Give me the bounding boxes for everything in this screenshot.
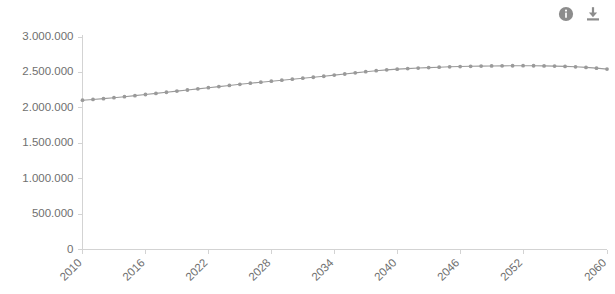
series-data-point[interactable] [595, 66, 599, 70]
series-data-point[interactable] [437, 65, 441, 69]
series-data-point[interactable] [406, 67, 410, 71]
series-data-point[interactable] [332, 73, 336, 77]
download-icon[interactable] [584, 5, 601, 22]
series-data-point[interactable] [490, 64, 494, 68]
series-data-point[interactable] [427, 66, 431, 70]
series-data-point[interactable] [175, 89, 179, 93]
series-data-point[interactable] [81, 98, 85, 102]
x-tick-label: 2034 [309, 256, 336, 283]
series-data-point[interactable] [186, 88, 190, 92]
series-data-point[interactable] [133, 94, 137, 98]
data-series [81, 64, 609, 102]
y-tick-label: 500.000 [32, 207, 74, 219]
series-data-point[interactable] [500, 64, 504, 68]
series-data-point[interactable] [542, 64, 546, 68]
series-data-point[interactable] [532, 64, 536, 68]
series-data-point[interactable] [385, 68, 389, 72]
x-tick-label: 2010 [57, 256, 84, 283]
series-data-point[interactable] [91, 98, 95, 102]
series-data-point[interactable] [238, 82, 242, 86]
series-data-point[interactable] [374, 69, 378, 73]
series-data-point[interactable] [469, 64, 473, 68]
series-line [83, 66, 608, 100]
series-data-point[interactable] [364, 70, 368, 74]
series-data-point[interactable] [416, 66, 420, 70]
x-tick-label: 2046 [435, 256, 462, 283]
x-tick-label: 2022 [183, 256, 210, 283]
y-tick-label: 2.000.000 [22, 101, 73, 113]
series-data-point[interactable] [227, 84, 231, 88]
chart-svg: 3.000.0002.500.0002.000.0001.500.0001.00… [0, 0, 615, 294]
x-tick-label: 2052 [498, 256, 525, 283]
series-data-point[interactable] [521, 64, 525, 68]
y-tick-label: 2.500.000 [22, 65, 73, 77]
series-data-point[interactable] [269, 79, 273, 83]
series-data-point[interactable] [165, 90, 169, 94]
series-data-point[interactable] [511, 64, 515, 68]
series-data-point[interactable] [290, 77, 294, 81]
series-data-point[interactable] [248, 81, 252, 85]
series-data-point[interactable] [448, 65, 452, 69]
chart-widget: 3.000.0002.500.0002.000.0001.500.0001.00… [0, 0, 615, 294]
y-tick-label: 0 [67, 243, 73, 255]
series-data-point[interactable] [479, 64, 483, 68]
series-data-point[interactable] [311, 75, 315, 79]
x-tick-label: 2016 [120, 256, 147, 283]
series-data-point[interactable] [217, 85, 221, 89]
series-data-point[interactable] [102, 97, 106, 101]
y-axis: 3.000.0002.500.0002.000.0001.500.0001.00… [22, 30, 82, 255]
series-data-point[interactable] [605, 67, 609, 71]
series-data-point[interactable] [353, 71, 357, 75]
plot-area: 3.000.0002.500.0002.000.0001.500.0001.00… [0, 0, 615, 294]
series-data-point[interactable] [196, 87, 200, 91]
series-data-point[interactable] [553, 64, 557, 68]
series-data-point[interactable] [395, 67, 399, 71]
series-data-point[interactable] [322, 74, 326, 78]
series-data-point[interactable] [458, 65, 462, 69]
x-axis: 201020162022202820342040204620522060 [57, 250, 608, 284]
series-data-point[interactable] [123, 95, 127, 99]
y-tick-label: 3.000.000 [22, 30, 73, 42]
series-data-point[interactable] [206, 86, 210, 90]
x-tick-label: 2040 [372, 256, 399, 283]
series-data-point[interactable] [584, 65, 588, 69]
x-tick-label: 2060 [582, 256, 609, 283]
y-tick-label: 1.000.000 [22, 172, 73, 184]
series-data-point[interactable] [144, 93, 148, 97]
series-data-point[interactable] [301, 76, 305, 80]
series-data-point[interactable] [574, 65, 578, 69]
series-data-point[interactable] [112, 96, 116, 100]
series-data-point[interactable] [280, 78, 284, 82]
series-data-point[interactable] [259, 80, 263, 84]
info-icon[interactable] [557, 5, 574, 22]
chart-toolbar [557, 5, 601, 22]
series-data-point[interactable] [154, 91, 158, 95]
y-tick-label: 1.500.000 [22, 136, 73, 148]
series-data-point[interactable] [563, 65, 567, 69]
series-data-point[interactable] [343, 72, 347, 76]
x-tick-label: 2028 [246, 256, 273, 283]
